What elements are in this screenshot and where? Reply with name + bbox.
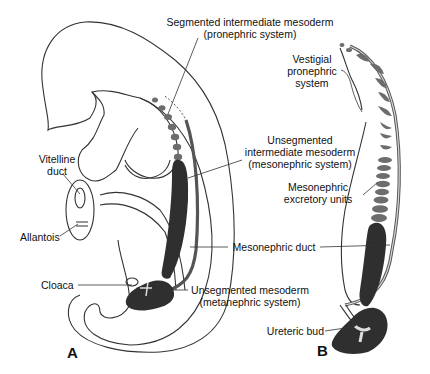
- label-allantois: Allantois: [20, 231, 60, 243]
- label-segmented-intermediate: Segmented intermediate mesoderm (proneph…: [167, 16, 334, 40]
- label-vestigial-pronephric: Vestigial pronephric system: [287, 53, 337, 89]
- label-line: Unsegmented mesoderm: [191, 284, 309, 296]
- metanephric-mass-b: [332, 308, 388, 354]
- unsegmented-intermediate-b: [359, 223, 386, 306]
- label-unsegmented-mesoderm: Unsegmented mesoderm (metanephric system…: [191, 284, 309, 308]
- label-line: intermediate mesoderm: [245, 146, 356, 158]
- metanephric-mass-a: [126, 280, 174, 310]
- label-line: Unsegmented: [267, 134, 333, 146]
- label-line: Mesonephric: [288, 181, 348, 193]
- label-line: Segmented intermediate mesoderm: [167, 16, 334, 28]
- label-vitelline-duct: Vitelline duct: [39, 153, 76, 177]
- vitelline-duct-stalk: [66, 180, 94, 240]
- label-line: duct: [47, 165, 67, 177]
- label-line: Cloaca: [41, 279, 74, 291]
- label-line: Mesonephric duct: [233, 241, 316, 253]
- label-line: Vitelline: [39, 153, 76, 165]
- label-mesonephric-duct: Mesonephric duct: [233, 241, 316, 253]
- label-line: (metanephric system): [200, 296, 301, 308]
- diagram: Segmented intermediate mesoderm (proneph…: [0, 0, 430, 374]
- heart-outline: [78, 92, 138, 181]
- vitelline-duct-lumen: [75, 188, 85, 208]
- label-line: pronephric: [287, 65, 337, 77]
- label-line: system: [295, 77, 329, 89]
- panel-label-b: B: [317, 342, 328, 359]
- label-line: (pronephric system): [204, 28, 297, 40]
- label-line: (mesonephric system): [248, 158, 351, 170]
- label-line: excretory units: [284, 193, 352, 205]
- label-cloaca: Cloaca: [41, 279, 74, 291]
- label-line: Allantois: [20, 231, 60, 243]
- label-unsegmented-intermediate: Unsegmented intermediate mesoderm (meson…: [245, 134, 356, 170]
- label-line: Ureteric bud: [267, 325, 324, 337]
- label-mesonephric-excretory: Mesonephric excretory units: [284, 181, 352, 205]
- foregut-outline: [125, 98, 178, 178]
- label-line: Vestigial: [292, 53, 331, 65]
- label-ureteric-bud: Ureteric bud: [267, 325, 324, 337]
- panel-label-a: A: [67, 344, 78, 361]
